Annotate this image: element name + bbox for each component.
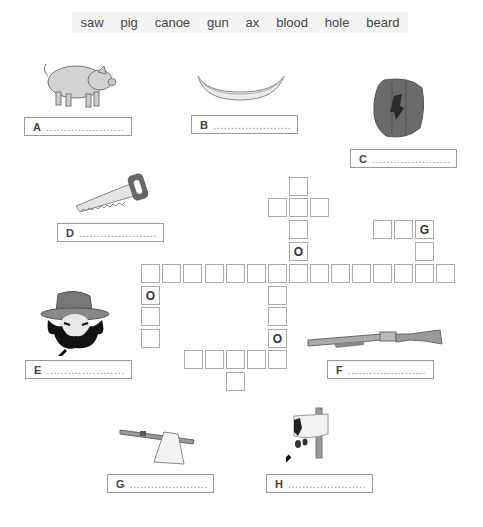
- answer-box-f[interactable]: F ......................: [327, 360, 434, 379]
- crossword-cell[interactable]: [289, 220, 308, 239]
- crossword-cell[interactable]: [268, 350, 287, 369]
- answer-label: B: [200, 119, 208, 131]
- answer-label: H: [275, 478, 283, 490]
- ax-picture: [118, 424, 198, 468]
- pig-picture: [38, 58, 120, 110]
- crossword-cell[interactable]: [247, 264, 266, 283]
- crossword-cell[interactable]: [289, 177, 308, 196]
- crossword-cell[interactable]: O: [289, 242, 308, 261]
- crossword-cell[interactable]: [352, 264, 371, 283]
- answer-box-g[interactable]: G ......................: [107, 474, 214, 493]
- crossword-cell[interactable]: [268, 198, 287, 217]
- word-bank-item: hole: [321, 15, 354, 30]
- crossword-cell[interactable]: [331, 264, 350, 283]
- answer-blank: ......................: [348, 364, 426, 376]
- crossword-cell[interactable]: [226, 372, 245, 391]
- crossword-cell[interactable]: [162, 264, 181, 283]
- answer-blank: ......................: [213, 119, 291, 131]
- word-bank-item: blood: [272, 15, 312, 30]
- crossword-cell[interactable]: [394, 264, 413, 283]
- crossword-cell[interactable]: [268, 286, 287, 305]
- answer-label: E: [34, 364, 41, 376]
- answer-label: D: [66, 227, 74, 239]
- word-bank-item: gun: [203, 15, 233, 30]
- crossword-cell[interactable]: [183, 264, 202, 283]
- crossword-cell[interactable]: [226, 350, 245, 369]
- answer-box-d[interactable]: D ......................: [57, 223, 164, 242]
- answer-blank: ......................: [288, 478, 366, 490]
- gun-picture: [306, 326, 444, 350]
- crossword-cell[interactable]: [141, 329, 160, 348]
- crossword-cell[interactable]: [373, 264, 392, 283]
- answer-blank: ......................: [372, 153, 450, 165]
- crossword-cell[interactable]: [394, 220, 413, 239]
- canoe-picture: [194, 72, 288, 106]
- crossword-cell[interactable]: [205, 264, 224, 283]
- beard-picture: [38, 290, 112, 356]
- answer-blank: ......................: [46, 364, 124, 376]
- answer-box-c[interactable]: C ......................: [350, 149, 457, 168]
- crossword-cell[interactable]: [226, 264, 245, 283]
- answer-blank: ......................: [46, 121, 124, 133]
- crossword-cell[interactable]: [141, 307, 160, 326]
- hole-picture: [370, 76, 426, 140]
- crossword-cell[interactable]: [310, 264, 329, 283]
- crossword-cell[interactable]: [415, 264, 434, 283]
- answer-box-e[interactable]: E ......................: [25, 360, 132, 379]
- answer-box-b[interactable]: B ......................: [191, 115, 298, 134]
- crossword-cell[interactable]: G: [415, 220, 434, 239]
- crossword-cell[interactable]: [205, 350, 224, 369]
- word-bank-item: pig: [116, 15, 141, 30]
- crossword-cell[interactable]: [289, 198, 308, 217]
- answer-label: C: [359, 153, 367, 165]
- word-bank-item: saw: [76, 15, 107, 30]
- crossword-cell[interactable]: [310, 198, 329, 217]
- answer-blank: ......................: [79, 227, 157, 239]
- answer-label: A: [33, 121, 41, 133]
- crossword-cell[interactable]: [268, 264, 287, 283]
- crossword-cell[interactable]: [141, 264, 160, 283]
- crossword-cell[interactable]: O: [268, 329, 287, 348]
- answer-box-h[interactable]: H ......................: [266, 474, 373, 493]
- saw-picture: [72, 172, 150, 214]
- answer-box-a[interactable]: A ......................: [24, 117, 132, 136]
- crossword-cell[interactable]: [415, 242, 434, 261]
- crossword-cell[interactable]: [289, 264, 308, 283]
- word-bank-item: ax: [242, 15, 264, 30]
- crossword-cell[interactable]: [247, 350, 266, 369]
- word-bank: saw pig canoe gun ax blood hole beard: [72, 12, 408, 33]
- answer-label: F: [336, 364, 343, 376]
- crossword-cell[interactable]: [436, 264, 455, 283]
- crossword-cell[interactable]: [184, 350, 203, 369]
- answer-label: G: [116, 478, 125, 490]
- crossword-cell[interactable]: [268, 307, 287, 326]
- blood-picture: [286, 406, 336, 468]
- word-bank-item: canoe: [151, 15, 194, 30]
- crossword-cell[interactable]: O: [141, 286, 160, 305]
- answer-blank: ......................: [130, 478, 208, 490]
- crossword-cell[interactable]: [373, 220, 392, 239]
- word-bank-item: beard: [362, 15, 403, 30]
